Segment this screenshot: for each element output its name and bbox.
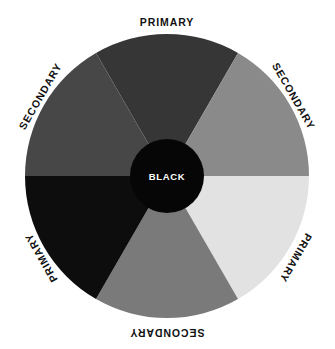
segment-bottom-label: SECONDARY — [130, 327, 205, 339]
segment-top-label: PRIMARY — [140, 16, 194, 28]
center-hub-label: BLACK — [149, 171, 186, 182]
color-wheel-figure: BLACK PRIMARYSECONDARYPRIMARYSECONDARYPR… — [0, 0, 335, 349]
color-wheel-svg: BLACK PRIMARYSECONDARYPRIMARYSECONDARYPR… — [0, 0, 335, 349]
